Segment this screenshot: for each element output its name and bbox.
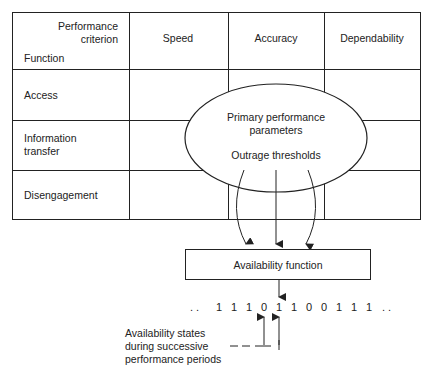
availability-function-label: Availability function: [233, 259, 322, 271]
column-header-accuracy: Accuracy: [254, 32, 298, 44]
bit: 1: [336, 301, 342, 313]
annotation-line3: performance periods: [125, 353, 221, 365]
bit: 0: [306, 301, 312, 313]
bit: 1: [246, 301, 252, 313]
row-label-disengagement: Disengagement: [24, 189, 98, 201]
bit-sequence: . . 1 1 1 0 1 1 0 0 1 1 1 . .: [190, 301, 391, 313]
trailing-dots: . .: [382, 301, 391, 313]
column-header-dependability: Dependability: [340, 32, 404, 44]
ellipse-outrage-label: Outrage thresholds: [231, 149, 320, 161]
bit: 1: [276, 301, 282, 313]
bit: 1: [351, 301, 357, 313]
bit: 0: [321, 301, 327, 313]
row-label-information: Information: [24, 132, 77, 144]
bit: 0: [261, 301, 267, 313]
leading-dots: . .: [190, 301, 199, 313]
corner-performance-label: Performance: [58, 20, 118, 32]
availability-diagram: Performance criterion Function Speed Acc…: [0, 0, 439, 376]
bit: 1: [231, 301, 237, 313]
corner-function-label: Function: [24, 52, 64, 64]
row-label-transfer: transfer: [24, 145, 60, 157]
bit: 1: [366, 301, 372, 313]
corner-criterion-label: criterion: [81, 33, 119, 45]
bit: 1: [216, 301, 222, 313]
bit: 1: [291, 301, 297, 313]
ellipse-primary-label: Primary performance: [227, 111, 325, 123]
annotation-line2: during successive: [125, 340, 209, 352]
annotation-line1: Availability states: [125, 327, 205, 339]
row-label-access: Access: [24, 89, 58, 101]
column-header-speed: Speed: [163, 32, 194, 44]
ellipse-parameters-label: parameters: [249, 124, 302, 136]
